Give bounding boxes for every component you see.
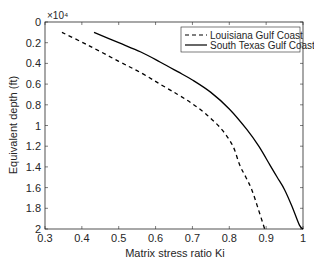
- legend: Louisiana Gulf Coast South Texas Gulf Co…: [181, 27, 314, 52]
- x-tick-label: 0.5: [111, 232, 126, 244]
- chart: 0.30.40.50.60.70.80.91 00.20.40.60.811.2…: [0, 0, 314, 266]
- y-tick-label: 1.2: [26, 140, 41, 152]
- x-tick-label: 0.9: [258, 232, 273, 244]
- y-tick-label: 0.2: [26, 37, 41, 49]
- x-tick-label: 0.4: [74, 232, 89, 244]
- y-axis-label: Equivalent depth (ft): [7, 76, 19, 174]
- x-tick-label: 0.8: [222, 232, 237, 244]
- plot-area: [45, 22, 303, 229]
- y-tick-label: 1.4: [26, 161, 41, 173]
- y-multiplier-label: ×10⁴: [47, 10, 68, 21]
- y-tick-label: 0: [35, 16, 41, 28]
- y-tick-label: 2: [35, 223, 41, 235]
- legend-item-south-texas: South Texas Gulf Coast: [210, 40, 314, 51]
- y-tick-label: 0.4: [26, 57, 41, 69]
- x-tick-label: 0.7: [185, 232, 200, 244]
- x-tick-label: 0.6: [148, 232, 163, 244]
- y-tick-label: 0.8: [26, 99, 41, 111]
- y-tick-label: 1.8: [26, 202, 41, 214]
- y-tick-label: 0.6: [26, 78, 41, 90]
- x-axis-label: Matrix stress ratio Ki: [125, 247, 225, 259]
- y-tick-label: 1: [35, 120, 41, 132]
- y-tick-label: 1.6: [26, 182, 41, 194]
- x-tick-label: 1: [300, 232, 306, 244]
